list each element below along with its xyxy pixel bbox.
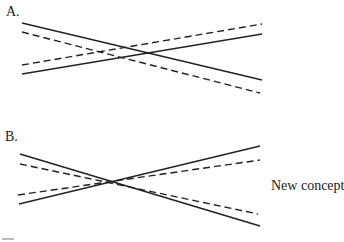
caption-fragment xyxy=(2,238,14,240)
new-concept-label: New concept xyxy=(271,178,344,194)
panel-b-solid-ascending-line xyxy=(19,146,260,204)
